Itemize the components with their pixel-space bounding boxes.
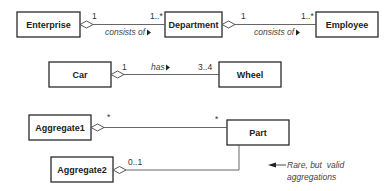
aggregation-diamond-icon [113, 167, 126, 174]
aggregation-diamond-icon [111, 71, 124, 78]
aggregation-aggregate1-part[interactable]: * * [91, 112, 227, 131]
class-car[interactable]: Car [49, 62, 111, 87]
uml-diagram-canvas: Enterprise Department Employee 1 1..* co… [0, 0, 389, 191]
aggregation-diamond-icon [91, 124, 104, 131]
class-name-aggregate1: Aggregate1 [35, 123, 85, 133]
aggregation-aggregate2-part[interactable]: 0..1 [113, 145, 239, 174]
class-name-enterprise: Enterprise [26, 20, 71, 30]
class-name-employee: Employee [326, 20, 369, 30]
class-wheel[interactable]: Wheel [219, 62, 281, 87]
class-name-part: Part [249, 128, 267, 138]
class-name-car: Car [72, 70, 88, 80]
association-label: has [151, 62, 165, 72]
note-line-1: Rare, but valid [287, 160, 344, 170]
multiplicity-part: 1..* [301, 11, 314, 21]
class-name-aggregate2: Aggregate2 [57, 165, 107, 175]
direction-arrow-icon [147, 30, 151, 36]
aggregation-diamond-icon [222, 21, 235, 28]
multiplicity-whole: 1 [241, 11, 246, 21]
note-line-2: aggregations [287, 172, 337, 182]
aggregation-diamond-icon [80, 21, 93, 28]
class-department[interactable]: Department [165, 12, 222, 37]
class-name-wheel: Wheel [237, 70, 264, 80]
aggregation-department-employee[interactable]: 1 1..* consists of [222, 11, 316, 37]
class-aggregate2[interactable]: Aggregate2 [51, 157, 113, 182]
class-employee[interactable]: Employee [316, 12, 378, 37]
class-aggregate1[interactable]: Aggregate1 [29, 115, 91, 140]
class-name-department: Department [168, 20, 218, 30]
multiplicity-whole: 1 [92, 11, 97, 21]
association-label: consists of [254, 27, 296, 37]
note-rare-aggregations: Rare, but valid aggregations [268, 160, 344, 182]
multiplicity-part: * [215, 114, 219, 124]
aggregation-car-wheel[interactable]: 1 3..4 has [111, 62, 219, 78]
association-label: consists of [105, 27, 147, 37]
multiplicity-part: 3..4 [198, 62, 212, 72]
multiplicity-part: 1..* [150, 11, 163, 21]
multiplicity-whole: * [107, 112, 111, 122]
class-enterprise[interactable]: Enterprise [17, 12, 80, 37]
direction-arrow-icon [166, 65, 170, 71]
class-part[interactable]: Part [227, 120, 289, 145]
multiplicity-whole: 1 [122, 62, 127, 72]
aggregation-enterprise-department[interactable]: 1 1..* consists of [80, 11, 165, 37]
direction-arrow-icon [296, 30, 300, 36]
arrow-left-icon [268, 163, 276, 168]
multiplicity-whole: 0..1 [128, 157, 142, 167]
